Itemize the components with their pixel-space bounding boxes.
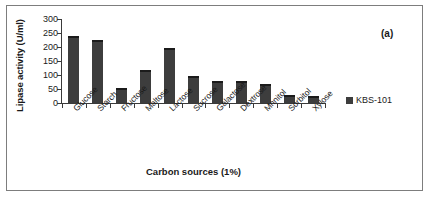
y-tick-label: 150: [43, 57, 58, 66]
y-axis-title: Lipase activity (U/ml): [14, 6, 25, 126]
y-tick-mark: [57, 19, 62, 20]
x-tick-mark: [86, 104, 87, 108]
y-tick-mark: [57, 61, 62, 62]
legend: KBS-101: [346, 95, 392, 105]
x-tick-mark: [110, 104, 111, 108]
x-tick-mark: [253, 104, 254, 108]
x-tick-mark: [182, 104, 183, 108]
x-tick-mark: [158, 104, 159, 108]
y-axis-tick-labels: 050100150200250300: [32, 19, 58, 103]
x-tick-mark: [62, 104, 63, 108]
x-tick-mark: [277, 104, 278, 108]
y-tick-mark: [57, 47, 62, 48]
y-tick-mark: [57, 75, 62, 76]
y-tick-label: 300: [43, 15, 58, 24]
y-tick-mark: [57, 89, 62, 90]
x-tick-mark: [205, 104, 206, 108]
y-tick-label: 250: [43, 29, 58, 38]
y-tick-mark: [57, 33, 62, 34]
x-tick-mark: [134, 104, 135, 108]
figure-container: Lipase activity (U/ml) 05010015020025030…: [0, 0, 429, 202]
y-tick-label: 100: [43, 71, 58, 80]
x-axis-category-labels: GlucoseStarchFructoseMaltoseLactoseSucro…: [62, 106, 325, 154]
x-tick-mark: [229, 104, 230, 108]
x-tick-mark: [301, 104, 302, 108]
x-axis-title: Carbon sources (1%): [62, 166, 325, 177]
x-tick-mark: [325, 104, 326, 108]
panel-label: (a): [381, 28, 393, 39]
legend-swatch-kbs-101: [346, 97, 353, 104]
legend-label-kbs-101: KBS-101: [356, 95, 392, 105]
bar-glucose: [68, 36, 79, 103]
y-tick-label: 200: [43, 43, 58, 52]
